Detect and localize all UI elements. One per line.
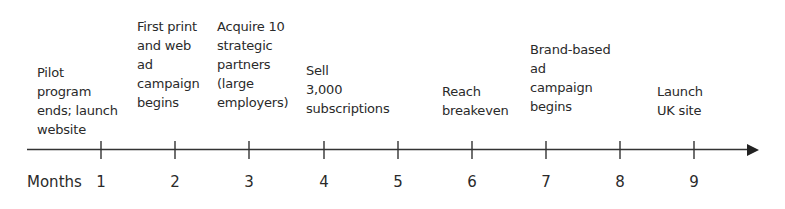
- month-tick-6: 6: [467, 173, 477, 191]
- month-tick-9: 9: [689, 173, 699, 191]
- month-tick-8: 8: [615, 173, 625, 191]
- month-tick-4: 4: [319, 173, 329, 191]
- arrow-right-icon: [747, 144, 759, 156]
- month-tick-3: 3: [244, 173, 254, 191]
- month-tick-7: 7: [541, 173, 551, 191]
- month-tick-2: 2: [170, 173, 180, 191]
- axis-label: Months: [27, 173, 82, 191]
- month-tick-1: 1: [96, 173, 106, 191]
- month-tick-5: 5: [393, 173, 403, 191]
